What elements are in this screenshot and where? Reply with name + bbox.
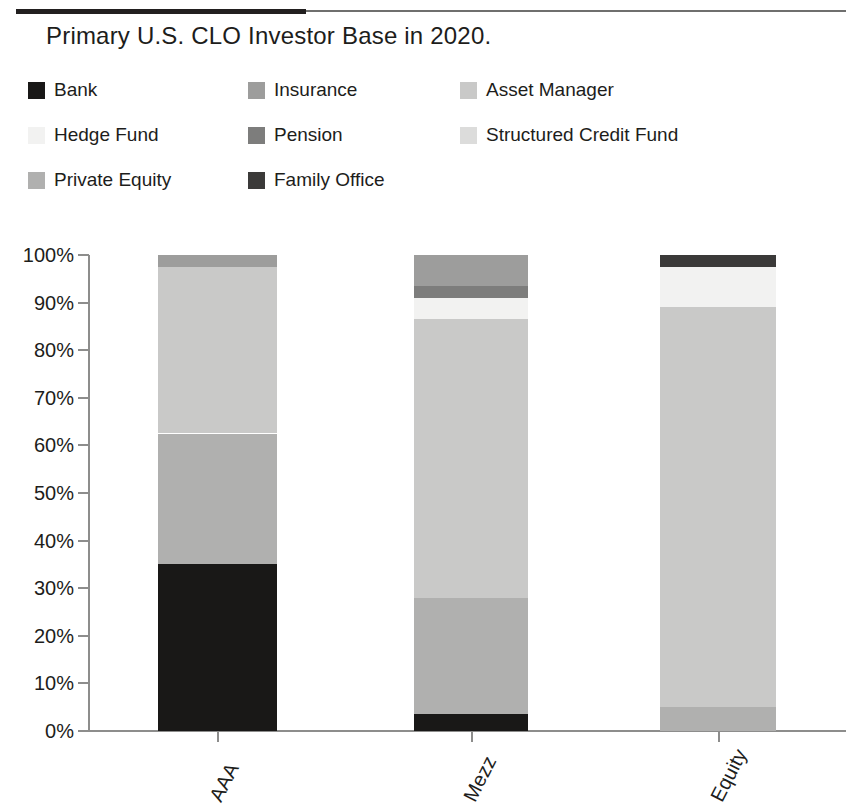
bar-segment-private-equity[interactable] [414, 598, 528, 715]
chart-plot-area: 0%10%20%30%40%50%60%70%80%90%100%AAAMezz… [0, 0, 860, 804]
y-axis-tick-label: 90% [4, 291, 74, 314]
y-axis-tick-mark [78, 397, 89, 399]
y-axis-tick-mark [78, 682, 89, 684]
y-axis-tick-label: 40% [4, 529, 74, 552]
bar-segment-asset-manager[interactable] [660, 307, 776, 707]
bar-segment-bank[interactable] [158, 564, 277, 731]
y-axis-tick-mark [78, 540, 89, 542]
y-axis-tick-mark [78, 587, 89, 589]
bar-equity[interactable] [660, 255, 776, 731]
y-axis-tick-label: 80% [4, 339, 74, 362]
bar-segment-hedge-fund[interactable] [414, 298, 528, 319]
bar-segment-asset-manager[interactable] [414, 319, 528, 597]
x-axis-category-label: Mezz [459, 752, 501, 804]
x-axis-tick-mark [217, 731, 219, 742]
y-axis-tick-mark [78, 635, 89, 637]
bar-segment-insurance[interactable] [414, 255, 528, 286]
bar-segment-family-office[interactable] [660, 255, 776, 267]
y-axis-tick-mark [78, 492, 89, 494]
bar-segment-private-equity[interactable] [158, 434, 277, 565]
y-axis-tick-label: 10% [4, 672, 74, 695]
bar-segment-asset-manager[interactable] [158, 267, 277, 434]
y-axis-tick-label: 100% [4, 244, 74, 267]
bar-mezz[interactable] [414, 255, 528, 731]
y-axis-tick-label: 30% [4, 577, 74, 600]
bar-segment-bank[interactable] [414, 714, 528, 731]
y-axis-tick-label: 70% [4, 386, 74, 409]
x-axis-category-label: AAA [205, 759, 244, 804]
y-axis-tick-mark [78, 730, 89, 732]
y-axis-tick-label: 20% [4, 624, 74, 647]
bar-segment-private-equity[interactable] [660, 707, 776, 731]
y-axis-tick-label: 50% [4, 482, 74, 505]
y-axis-tick-mark [78, 444, 89, 446]
y-axis-tick-mark [78, 302, 89, 304]
bar-segment-insurance[interactable] [158, 255, 277, 267]
x-axis-tick-mark [718, 731, 720, 742]
y-axis-tick-mark [78, 349, 89, 351]
x-axis-tick-mark [471, 731, 473, 742]
bar-segment-pension[interactable] [414, 286, 528, 298]
y-axis-tick-mark [78, 254, 89, 256]
y-axis-tick-label: 60% [4, 434, 74, 457]
bar-aaa[interactable] [158, 255, 277, 731]
y-axis-tick-label: 0% [4, 720, 74, 743]
bar-segment-hedge-fund[interactable] [660, 267, 776, 307]
x-axis-category-label: Equity [706, 745, 752, 804]
